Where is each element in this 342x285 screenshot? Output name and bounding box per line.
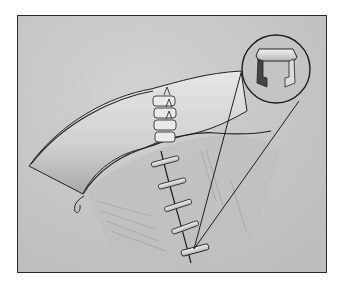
surgical-illustration	[18, 16, 326, 272]
magnified-inset	[242, 35, 310, 103]
illustration-frame	[17, 15, 327, 273]
